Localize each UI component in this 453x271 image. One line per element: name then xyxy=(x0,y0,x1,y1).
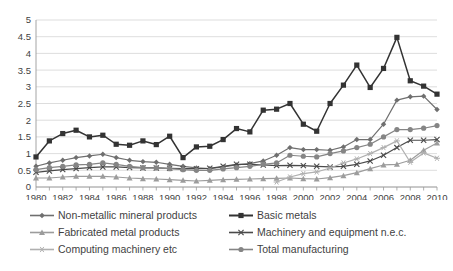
series-marker xyxy=(207,168,212,173)
x-axis-tick-label: 2002 xyxy=(319,192,340,200)
legend-label: Machinery and equipment n.e.c. xyxy=(257,226,406,239)
series-marker xyxy=(127,158,132,163)
series-marker xyxy=(287,145,292,150)
series-marker xyxy=(408,94,413,99)
series-0 xyxy=(33,93,439,171)
x-axis-tick-label: 1988 xyxy=(132,192,153,200)
legend-item-non-metallic-mineral-products[interactable]: Non-metallic mineral products xyxy=(29,208,229,223)
x-axis-tick-label: 1982 xyxy=(52,192,73,200)
series-marker xyxy=(87,134,92,139)
x-axis-tick-label: 1980 xyxy=(25,192,46,200)
series-marker xyxy=(234,165,239,170)
series-marker xyxy=(194,144,199,149)
x-axis-tick-label: 2008 xyxy=(400,192,421,200)
series-group xyxy=(33,35,440,185)
legend-key-triangle-icon xyxy=(29,226,55,239)
series-marker xyxy=(314,147,319,152)
series-marker xyxy=(234,126,239,131)
chart-plot-area: 00.511.522.533.544.55 198019821984198619… xyxy=(0,0,453,200)
series-marker xyxy=(261,108,266,113)
series-marker xyxy=(354,62,359,67)
series-marker xyxy=(74,128,79,133)
series-marker xyxy=(314,129,319,134)
series-marker xyxy=(154,160,159,165)
series-marker xyxy=(247,164,252,169)
series-marker xyxy=(274,160,279,165)
legend-item-computing-machinery[interactable]: Computing machinery etc xyxy=(29,242,229,257)
series-marker xyxy=(167,166,172,171)
series-marker xyxy=(140,165,145,170)
legend-key-asterisk-icon xyxy=(29,243,55,256)
legend-label: Computing machinery etc xyxy=(58,243,177,256)
legend-label: Non-metallic mineral products xyxy=(58,209,197,222)
series-marker xyxy=(60,158,65,163)
x-axis-tick-label: 1992 xyxy=(186,192,207,200)
series-marker xyxy=(408,78,413,83)
legend-item-basic-metals[interactable]: Basic metals xyxy=(228,208,453,223)
y-axis-tick-label: 4 xyxy=(26,48,31,59)
series-line xyxy=(36,37,437,157)
legend-key-circle-icon xyxy=(228,243,254,256)
series-marker xyxy=(394,97,399,102)
series-marker xyxy=(434,92,439,97)
series-marker xyxy=(341,148,346,153)
series-marker xyxy=(114,142,119,147)
series-marker xyxy=(154,165,159,170)
y-axis-tick-label: 3 xyxy=(26,81,31,92)
series-marker xyxy=(33,167,38,172)
series-marker xyxy=(73,155,78,160)
series-marker xyxy=(408,127,413,132)
x-axis-tick-label: 1984 xyxy=(79,192,100,200)
series-marker xyxy=(100,152,105,157)
series-marker xyxy=(421,147,427,153)
x-axis-tick-label: 1990 xyxy=(159,192,180,200)
legend-item-machinery-and-equipment[interactable]: Machinery and equipment n.e.c. xyxy=(228,225,453,240)
legend-item-fabricated-metal-products[interactable]: Fabricated metal products xyxy=(29,225,229,240)
y-axis-tick-label: 4.5 xyxy=(18,31,31,42)
x-axis-tick-label: 2006 xyxy=(373,192,394,200)
series-marker xyxy=(287,153,292,158)
series-marker xyxy=(421,126,426,131)
x-axis-labels-group: 1980198219841986198819901992199419961998… xyxy=(25,192,447,200)
series-marker xyxy=(60,131,65,136)
chart-screenshot: 00.511.522.533.544.55 198019821984198619… xyxy=(0,0,453,271)
series-marker xyxy=(87,162,92,167)
series-marker xyxy=(301,147,306,152)
series-marker xyxy=(207,144,212,149)
x-axis-tick-label: 2010 xyxy=(426,192,447,200)
series-marker xyxy=(368,142,373,147)
x-axis-tick-label: 1998 xyxy=(266,192,287,200)
series-marker xyxy=(100,160,105,165)
legend-key-square-icon xyxy=(228,209,254,222)
y-axis-tick-label: 0 xyxy=(26,181,31,192)
series-marker xyxy=(261,162,266,167)
y-axis-tick-label: 3.5 xyxy=(18,65,31,76)
series-marker xyxy=(354,137,359,142)
chart-legend: Non-metallic mineral products Basic meta… xyxy=(0,207,453,271)
legend-item-total-manufacturing[interactable]: Total manufacturing xyxy=(228,242,453,257)
x-axis-tick-label: 1986 xyxy=(106,192,127,200)
line-chart-svg: 00.511.522.533.544.55 198019821984198619… xyxy=(0,0,453,200)
x-axis-tick-label: 2000 xyxy=(293,192,314,200)
series-marker xyxy=(127,164,132,169)
series-2 xyxy=(33,140,440,184)
series-marker xyxy=(314,154,319,159)
y-axis-labels-group: 00.511.522.533.544.55 xyxy=(18,14,31,192)
series-marker xyxy=(180,167,185,172)
legend-key-marker xyxy=(238,247,243,252)
series-marker xyxy=(341,83,346,88)
series-marker xyxy=(100,133,105,138)
series-marker xyxy=(87,153,92,158)
series-marker xyxy=(221,137,226,142)
y-axis-tick-label: 0.5 xyxy=(18,165,31,176)
series-marker xyxy=(327,151,332,156)
y-axis-tick-label: 1 xyxy=(26,148,31,159)
legend-label: Total manufacturing xyxy=(257,243,349,256)
series-marker xyxy=(127,143,132,148)
series-marker xyxy=(327,101,332,106)
series-marker xyxy=(381,66,386,71)
series-marker xyxy=(301,154,306,159)
series-marker xyxy=(140,159,145,164)
legend-label: Fabricated metal products xyxy=(58,226,179,239)
series-marker xyxy=(221,166,226,171)
